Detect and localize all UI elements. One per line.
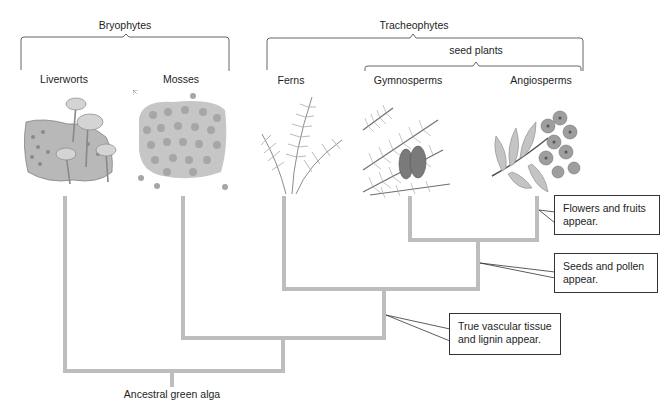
root-label-ancestral-green-alga: Ancestral green alga xyxy=(124,388,220,400)
callout-pointer-vascular xyxy=(386,315,450,341)
callout-vascular-tissue: True vascular tissue and lignin appear. xyxy=(449,313,561,355)
callout-flowers-and-fruits: Flowers and fruits appear. xyxy=(554,195,660,235)
callout-pointer-flowers xyxy=(539,210,555,223)
callout-seeds-and-pollen: Seeds and pollen appear. xyxy=(554,253,658,293)
callout-pointer-seeds xyxy=(480,263,555,278)
